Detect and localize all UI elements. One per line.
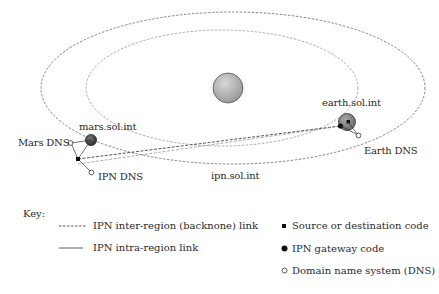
legend-label: IPN inter-region (backnone) link [93, 220, 258, 231]
mars-node-label: mars.sol.int [79, 121, 136, 133]
earth-node-label: earth.sol.int [322, 97, 381, 109]
legend-label: IPN gateway code [292, 243, 384, 254]
mars-dns-label: Mars DNS [18, 137, 69, 149]
legend-item-inter-region-link: IPN inter-region (backnone) link [59, 220, 258, 231]
ipn-region-label: ipn.sol.int [211, 170, 259, 182]
filled-circle-icon [281, 245, 288, 252]
solid-line-icon [59, 245, 87, 251]
open-circle-icon [281, 267, 288, 274]
small-square-icon [281, 223, 287, 229]
legend-item-source-destination: Source or destination code [281, 220, 429, 231]
legend-label: Source or destination code [292, 220, 429, 231]
legend-item-dns: Domain name system (DNS) [281, 265, 435, 276]
earth-source-node-icon [347, 120, 351, 124]
ipn-dns-icon [89, 170, 94, 175]
key-title: Key: [23, 208, 45, 219]
mars-dns-to-node-link [71, 143, 78, 159]
legend-label: IPN intra-region link [93, 242, 198, 253]
legend-label: Domain name system (DNS) [292, 265, 435, 276]
dashed-line-icon [59, 223, 87, 229]
earth-dns-icon [356, 133, 361, 138]
legend-item-ipn-gateway: IPN gateway code [281, 243, 384, 254]
legend-item-intra-region-link: IPN intra-region link [59, 242, 198, 253]
mars-source-node-icon [76, 157, 80, 161]
ipn-dns-label: IPN DNS [98, 171, 143, 183]
earth-gateway-node-icon [338, 123, 343, 128]
mars-gateway-link [78, 140, 91, 159]
sun-icon [213, 73, 243, 103]
earth-dns-label: Earth DNS [364, 145, 418, 157]
